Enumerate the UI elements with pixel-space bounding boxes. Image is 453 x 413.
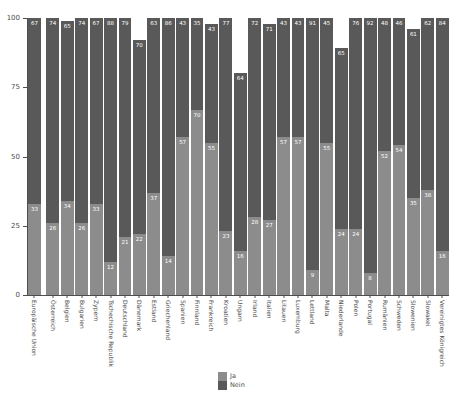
bar-segment-nein[interactable]: 74: [75, 18, 88, 223]
bar-segment-nein[interactable]: 62: [421, 18, 434, 190]
bar-segment-nein[interactable]: 86: [162, 18, 175, 256]
bar-column[interactable]: 7624Polen: [349, 18, 362, 295]
bar-column[interactable]: 7921Deutschland: [119, 18, 132, 295]
bar-segment-nein[interactable]: 67: [28, 18, 41, 204]
bar-segment-ja[interactable]: 55: [205, 143, 218, 295]
bar-segment-ja[interactable]: 23: [219, 231, 232, 295]
bar-column[interactable]: 4852Rumänien: [378, 18, 391, 295]
bar-column[interactable]: 6534Belgien: [61, 18, 74, 295]
bar-segment-ja[interactable]: 22: [133, 234, 146, 295]
bar-segment-ja[interactable]: 34: [61, 201, 74, 295]
bar-segment-nein[interactable]: 88: [104, 18, 117, 262]
bar-column[interactable]: 8812Tschechische Republik: [104, 18, 117, 295]
bar-column[interactable]: 4555Malta: [320, 18, 333, 295]
bar-column[interactable]: 7426Bulgarien: [75, 18, 88, 295]
bar-segment-ja[interactable]: 55: [320, 143, 333, 295]
bar-segment-ja[interactable]: 12: [104, 262, 117, 295]
bar-segment-nein[interactable]: 70: [133, 40, 146, 234]
bar-segment-ja[interactable]: 16: [234, 251, 247, 295]
x-axis-tick: [341, 295, 342, 298]
bar-column[interactable]: 6733Zypern: [90, 18, 103, 295]
bar-column[interactable]: 928Portugal: [364, 18, 377, 295]
bar-segment-ja[interactable]: 38: [421, 190, 434, 295]
bar-segment-ja[interactable]: 26: [46, 223, 59, 295]
bar-segment-nein[interactable]: 91: [306, 18, 319, 270]
bar-segment-ja[interactable]: 16: [436, 251, 449, 295]
x-axis-category-label: Polen: [352, 300, 359, 316]
bar-segment-ja[interactable]: 57: [292, 137, 305, 295]
bar-segment-ja[interactable]: 33: [28, 204, 41, 295]
bar-segment-nein[interactable]: 48: [378, 18, 391, 151]
bar-column[interactable]: 4357Litauen: [277, 18, 290, 295]
bar-column[interactable]: 6733Europäische Union: [28, 18, 41, 295]
bar-segment-ja[interactable]: 24: [349, 229, 362, 295]
x-axis-category-label: Kroatien: [222, 300, 229, 325]
bar-segment-nein[interactable]: 61: [407, 29, 420, 198]
bar-segment-ja[interactable]: 21: [119, 237, 132, 295]
bar-column[interactable]: 6238Slowakei: [421, 18, 434, 295]
bar-column[interactable]: 3570Finnland: [191, 18, 204, 295]
bar-segment-nein[interactable]: 43: [205, 24, 218, 143]
bar-segment-ja[interactable]: 14: [162, 256, 175, 295]
bar-segment-ja[interactable]: 33: [90, 204, 103, 295]
bar-segment-nein[interactable]: 43: [176, 18, 189, 137]
bar-segment-nein[interactable]: 45: [320, 18, 333, 143]
bar-column[interactable]: 7723Kroatien: [219, 18, 232, 295]
bar-segment-nein[interactable]: 67: [90, 18, 103, 204]
bar-column[interactable]: 7426Österreich: [46, 18, 59, 295]
bar-column[interactable]: 7228Irland: [248, 18, 261, 295]
bar-value-label-nein: 67: [31, 20, 38, 27]
bar-segment-ja[interactable]: 37: [147, 193, 160, 295]
bar-segment-nein[interactable]: 65: [335, 48, 348, 228]
bar-segment-ja[interactable]: 57: [176, 137, 189, 295]
bar-segment-ja[interactable]: 35: [407, 198, 420, 295]
bar-column[interactable]: 4654Schweden: [393, 18, 406, 295]
legend-item-nein[interactable]: Nein: [218, 381, 245, 390]
bar-value-label-ja: 57: [295, 139, 302, 146]
bar-segment-ja[interactable]: 9: [306, 270, 319, 295]
bar-segment-ja[interactable]: 26: [75, 223, 88, 295]
bar-segment-nein[interactable]: 43: [292, 18, 305, 137]
bar-column[interactable]: 7022Dänemark: [133, 18, 146, 295]
bar-column[interactable]: 4355Frankreich: [205, 18, 218, 295]
x-axis-category-label: Lettland: [309, 300, 316, 325]
bar-segment-ja[interactable]: 27: [263, 220, 276, 295]
bar-column[interactable]: 8614Griechenland: [162, 18, 175, 295]
bar-segment-nein[interactable]: 64: [234, 73, 247, 250]
bar-segment-nein[interactable]: 72: [248, 18, 261, 217]
legend-item-ja[interactable]: Ja: [218, 372, 245, 381]
bar-segment-ja[interactable]: 54: [393, 145, 406, 295]
bar-column[interactable]: 919Lettland: [306, 18, 319, 295]
bar-segment-nein[interactable]: 77: [219, 18, 232, 231]
bar-segment-nein[interactable]: 65: [61, 21, 74, 201]
bar-segment-ja[interactable]: 70: [191, 110, 204, 295]
bar-segment-nein[interactable]: 71: [263, 24, 276, 221]
bar-column[interactable]: 4357Luxemburg: [292, 18, 305, 295]
x-axis-category-label: Schweden: [395, 300, 402, 331]
bar-segment-nein[interactable]: 92: [364, 18, 377, 273]
bar-column[interactable]: 4357Spanien: [176, 18, 189, 295]
bar-segment-nein[interactable]: 46: [393, 18, 406, 145]
bar-segment-ja[interactable]: 57: [277, 137, 290, 295]
bar-column[interactable]: 8416Vereinigtes Königreich: [436, 18, 449, 295]
bar-segment-nein[interactable]: 76: [349, 18, 362, 229]
bar-column[interactable]: 7127Italien: [263, 18, 276, 295]
bar-segment-nein[interactable]: 43: [277, 18, 290, 137]
bar-column[interactable]: 6524Niederlande: [335, 18, 348, 295]
bar-segment-ja[interactable]: 28: [248, 217, 261, 295]
bar-segment-nein[interactable]: 79: [119, 18, 132, 237]
bar-segment-nein[interactable]: 74: [46, 18, 59, 223]
bar-column[interactable]: 6135Slowenien: [407, 18, 420, 295]
bar-segment-ja[interactable]: 24: [335, 229, 348, 295]
bar-segment-ja[interactable]: 8: [364, 273, 377, 295]
bar-segment-nein[interactable]: 63: [147, 18, 160, 193]
bar-value-label-ja: 14: [165, 258, 172, 265]
bar-column[interactable]: 6337Estland: [147, 18, 160, 295]
x-axis-tick: [153, 295, 154, 298]
bar-column[interactable]: 6416Ungarn: [234, 18, 247, 295]
bar-value-label-ja: 22: [136, 236, 143, 243]
bar-value-label-nein: 86: [165, 20, 172, 27]
bar-segment-nein[interactable]: 84: [436, 18, 449, 251]
bar-segment-nein[interactable]: 35: [191, 18, 204, 110]
bar-segment-ja[interactable]: 52: [378, 151, 391, 295]
